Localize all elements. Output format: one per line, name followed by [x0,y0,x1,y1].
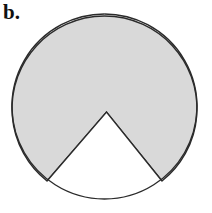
circle-wedge-diagram [0,0,212,213]
figure-container: b. [0,0,212,213]
